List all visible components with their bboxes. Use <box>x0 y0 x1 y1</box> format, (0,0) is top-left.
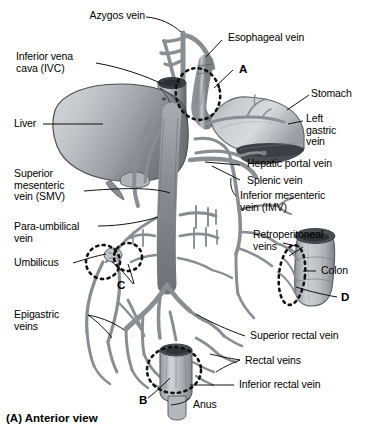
figure-caption: (A) Anterior view <box>6 412 98 424</box>
label-left-gastric-vein: Left gastric vein <box>306 113 336 148</box>
leader-rectal-2 <box>216 360 240 372</box>
label-inferior-mesenteric-vein: Inferior mesenteric vein (IMV) <box>240 190 325 213</box>
marker-c: C <box>117 279 125 291</box>
portal-venous-system-figure: Azygos vein Esophageal vein Inferior ven… <box>0 0 367 432</box>
leader-stomach <box>287 95 309 110</box>
leader-epigastric-1 <box>88 315 124 330</box>
label-epigastric-veins: Epigastric veins <box>14 309 59 332</box>
label-para-umbilical-vein: Para-umbilical vein <box>14 221 79 244</box>
portal-vein-group <box>159 112 178 285</box>
leader-azygos <box>146 17 181 32</box>
leader-ivc <box>96 63 162 84</box>
marker-d: D <box>341 291 349 303</box>
mesenteric-branches-group <box>130 206 232 278</box>
leader-smv <box>84 189 170 193</box>
label-esophageal-vein: Esophageal vein <box>228 32 304 44</box>
label-azygos-vein: Azygos vein <box>0 10 145 22</box>
label-splenic-vein: Splenic vein <box>247 175 302 187</box>
label-inferior-rectal-vein: Inferior rectal vein <box>239 379 320 391</box>
label-superior-mesenteric-vein: Superior mesenteric vein (SMV) <box>14 168 65 203</box>
leader-splenic <box>212 166 240 180</box>
label-hepatic-portal-vein: Hepatic portal vein <box>247 158 332 170</box>
stomach-group <box>210 97 304 164</box>
marker-a: A <box>239 63 247 75</box>
label-inferior-vena-cava: Inferior vena cava (IVC) <box>16 51 73 74</box>
label-umbilicus: Umbilicus <box>14 257 59 269</box>
label-anus: Anus <box>193 399 217 411</box>
marker-b: B <box>139 394 147 406</box>
label-colon: Colon <box>321 265 348 277</box>
leader-esophageal <box>206 40 222 57</box>
label-retroperitoneal-veins: Retroperitoneal veins <box>253 229 323 252</box>
label-rectal-veins: Rectal veins <box>245 355 301 367</box>
leader-marker-a <box>214 70 233 88</box>
label-stomach: Stomach <box>311 88 352 100</box>
label-liver: Liver <box>14 118 36 130</box>
leader-umbilicus <box>73 254 106 263</box>
label-superior-rectal-vein: Superior rectal vein <box>250 330 338 342</box>
